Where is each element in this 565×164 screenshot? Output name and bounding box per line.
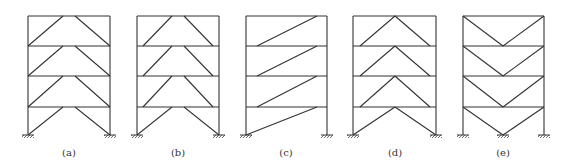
ground-support-icon xyxy=(22,135,550,138)
frame-label-b: (b) xyxy=(171,147,185,158)
frame-d xyxy=(353,16,436,135)
frame-c xyxy=(246,16,327,135)
frame-label-e: (e) xyxy=(496,147,510,158)
frame-b xyxy=(137,16,219,135)
frame-a xyxy=(28,16,110,135)
frame-e xyxy=(463,16,544,135)
frame-label-d: (d) xyxy=(388,147,402,158)
frame-label-a: (a) xyxy=(62,147,76,158)
braced-frames-diagram: (a) (b) (c) (d) (e) xyxy=(0,0,565,164)
frame-label-c: (c) xyxy=(279,147,293,158)
support-symbols xyxy=(22,135,550,138)
